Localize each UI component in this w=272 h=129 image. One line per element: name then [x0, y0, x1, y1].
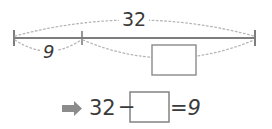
- equation-result: 9: [188, 96, 201, 120]
- worksheet-diagram-canvas: 32 9 32 − =9: [0, 0, 272, 129]
- total-value-label: 32: [119, 9, 149, 30]
- right-arrow-icon: [62, 101, 82, 116]
- equation-minuend: 32: [89, 98, 116, 119]
- equation-minus-operator: −: [118, 97, 136, 118]
- empty-answer-box-on-arc[interactable]: [152, 45, 196, 75]
- known-part-value-label: 9: [40, 43, 57, 61]
- empty-answer-box-equation[interactable]: [130, 92, 169, 122]
- equation-equals-result: =9: [170, 98, 201, 119]
- equation-equals-sign: =: [170, 96, 188, 120]
